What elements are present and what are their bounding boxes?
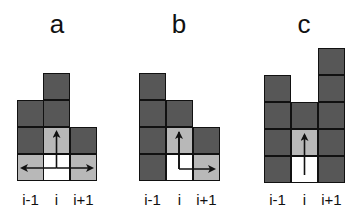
arrows-up-right-icon [122,0,242,214]
column-label-i-plus-1: i+1 [193,191,220,209]
panel-c: c i-1 i i+1 [247,0,362,214]
column-label-i-plus-1: i+1 [318,191,345,209]
column-label-i-plus-1: i+1 [70,191,97,209]
arrows-up-left-right-icon [0,0,120,214]
panel-a: a i-1 i i+1 [0,0,120,214]
column-label-i: i [291,191,318,209]
column-label-i: i [43,191,70,209]
panel-b: b i-1 i i+1 [122,0,242,214]
column-label-i: i [166,191,193,209]
arrow-up-icon [247,0,362,214]
column-label-i-minus-1: i-1 [17,191,44,209]
column-label-i-minus-1: i-1 [264,191,291,209]
column-label-i-minus-1: i-1 [139,191,166,209]
